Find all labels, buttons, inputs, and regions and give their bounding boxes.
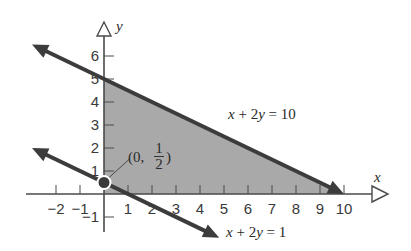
x-tick-label: 1 — [124, 200, 132, 217]
y-axis-arrow-icon — [97, 22, 111, 36]
label-part: + 2 — [233, 224, 256, 240]
point-label-open: (0, — [128, 149, 144, 166]
y-tick-label: 3 — [91, 116, 99, 133]
point-label-denominator: 2 — [155, 156, 163, 172]
point-marker — [98, 176, 111, 189]
x-tick-label: 6 — [244, 200, 252, 217]
line-label-1: x + 2y = 1 — [225, 224, 286, 240]
label-part: = 1 — [263, 224, 286, 240]
label-part: = 10 — [265, 106, 296, 122]
y-tick-label: 6 — [91, 47, 99, 64]
x-axis-arrow-icon — [372, 186, 388, 202]
line-label-10: x + 2y = 10 — [227, 106, 296, 122]
y-tick-label: −1 — [82, 208, 99, 225]
y-tick-label: 4 — [91, 93, 99, 110]
x-tick-label: 8 — [292, 200, 300, 217]
y-axis-label: y — [114, 18, 123, 34]
x-axis-label: x — [373, 169, 381, 185]
point-label-numerator: 1 — [155, 140, 163, 156]
x-tick-label: 9 — [316, 200, 324, 217]
point-label-close: ) — [166, 149, 171, 166]
x-tick-label: 7 — [268, 200, 276, 217]
label-part: y — [256, 106, 265, 122]
x-tick-label: −2 — [47, 200, 64, 217]
y-tick-label: 2 — [91, 139, 99, 156]
x-tick-label: 4 — [196, 200, 204, 217]
chart: −2−112345678910−1123456 (0,12) x y x + 2… — [0, 0, 411, 251]
x-tick-label: 10 — [336, 200, 353, 217]
label-part: + 2 — [235, 106, 258, 122]
x-tick-label: 5 — [220, 200, 228, 217]
label-part: y — [254, 224, 263, 240]
